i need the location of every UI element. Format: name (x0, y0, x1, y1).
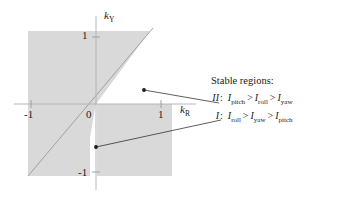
term-2-subscript-ii: roll (258, 98, 268, 106)
legend-tag-ii: II (205, 92, 219, 103)
operator-2-i: > (268, 110, 274, 121)
operator-2-ii: > (270, 92, 276, 103)
legend-expression-ii: Ipitch>Iroll>Iyaw (228, 92, 293, 106)
legend-colon-ii: : (220, 92, 223, 103)
x-axis-label: kR (180, 103, 190, 118)
stable-regions-figure: -1 0 1 1 -1 kY kR Stable regions: II : I… (0, 0, 338, 200)
x-tick-label-neg1: -1 (24, 108, 33, 120)
operator-1-ii: > (247, 92, 253, 103)
y-tick-label-pos1: 1 (82, 29, 88, 41)
legend-title: Stable regions: (211, 75, 338, 86)
term-3-subscript-i: pitch (279, 116, 293, 124)
x-tick-label-zero: 0 (86, 108, 92, 120)
term-1-subscript-i: roll (231, 116, 241, 124)
legend: Stable regions: II : Ipitch>Iroll>Iyaw I… (205, 75, 338, 124)
y-tick-label-neg1: -1 (78, 166, 87, 178)
legend-colon-i: : (220, 110, 223, 121)
legend-entry-i: I : Iroll>Iyaw>Ipitch (205, 110, 338, 124)
x-axis-label-subscript: R (185, 109, 190, 118)
operator-1-i: > (243, 110, 249, 121)
x-tick-label-pos1: 1 (158, 108, 164, 120)
y-axis-label: kY (104, 9, 114, 24)
legend-tag-i: I (205, 110, 219, 121)
region-ii-shading (28, 31, 150, 104)
legend-entry-ii: II : Ipitch>Iroll>Iyaw (205, 92, 338, 106)
term-1-subscript-ii: pitch (231, 98, 245, 106)
term-3-subscript-ii: yaw (281, 98, 293, 106)
term-2-subscript-i: yaw (254, 116, 266, 124)
y-axis-label-subscript: Y (109, 15, 114, 24)
legend-expression-i: Iroll>Iyaw>Ipitch (228, 110, 293, 124)
